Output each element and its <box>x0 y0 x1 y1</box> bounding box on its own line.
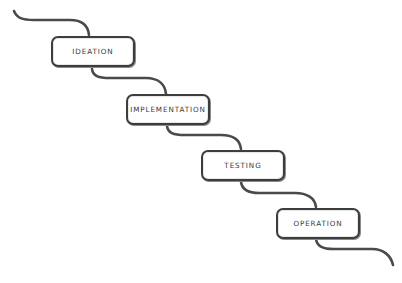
stage-label: OPERATION <box>293 219 342 228</box>
ribbon-lead-in <box>14 11 89 35</box>
stage-operation: OPERATION <box>276 208 360 239</box>
stage-label: IMPLEMENTATION <box>130 105 206 114</box>
stage-implementation: IMPLEMENTATION <box>126 94 210 125</box>
ribbon-ideation-to-implementation <box>92 69 166 94</box>
stage-label: IDEATION <box>72 47 113 56</box>
stage-ideation: IDEATION <box>51 36 135 67</box>
ribbon-tail-out <box>316 239 393 265</box>
stage-label: TESTING <box>224 161 261 170</box>
ribbon-testing-to-operation <box>241 182 316 207</box>
stage-testing: TESTING <box>201 150 285 181</box>
ribbon-implementation-to-testing <box>167 126 241 149</box>
